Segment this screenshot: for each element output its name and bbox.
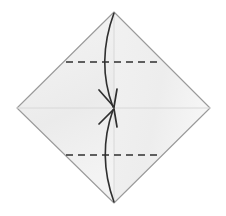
origami-diagram-canvas — [0, 0, 226, 216]
origami-diagram-figure — [0, 0, 226, 216]
